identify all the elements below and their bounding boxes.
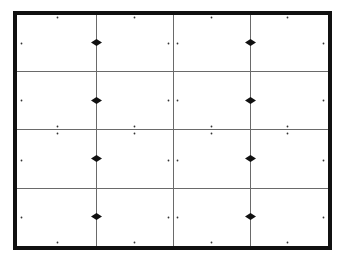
dot-marker xyxy=(57,242,59,244)
dot-marker xyxy=(57,17,59,19)
dot-marker xyxy=(168,217,170,219)
dot-marker xyxy=(177,217,179,219)
dot-marker xyxy=(57,133,59,135)
dot-marker xyxy=(211,242,213,244)
dot-marker xyxy=(287,17,289,19)
dot-marker xyxy=(211,17,213,19)
dot-marker xyxy=(168,100,170,102)
dot-marker xyxy=(134,242,136,244)
dot-marker xyxy=(21,160,23,162)
dot-marker xyxy=(177,160,179,162)
dot-marker xyxy=(287,133,289,135)
dot-marker xyxy=(323,43,325,45)
dot-marker xyxy=(134,126,136,128)
dot-marker xyxy=(211,133,213,135)
dot-marker xyxy=(177,100,179,102)
dot-marker xyxy=(323,100,325,102)
dot-marker xyxy=(211,126,213,128)
dot-marker xyxy=(323,217,325,219)
dot-marker xyxy=(21,43,23,45)
dot-marker xyxy=(323,160,325,162)
dot-marker xyxy=(287,242,289,244)
grid-diagram xyxy=(0,0,339,258)
dot-marker xyxy=(57,126,59,128)
dot-marker xyxy=(168,43,170,45)
dot-marker xyxy=(134,17,136,19)
dot-marker xyxy=(177,43,179,45)
dot-marker xyxy=(21,217,23,219)
dot-marker xyxy=(21,100,23,102)
dot-marker xyxy=(168,160,170,162)
dot-marker xyxy=(287,126,289,128)
dot-marker xyxy=(134,133,136,135)
